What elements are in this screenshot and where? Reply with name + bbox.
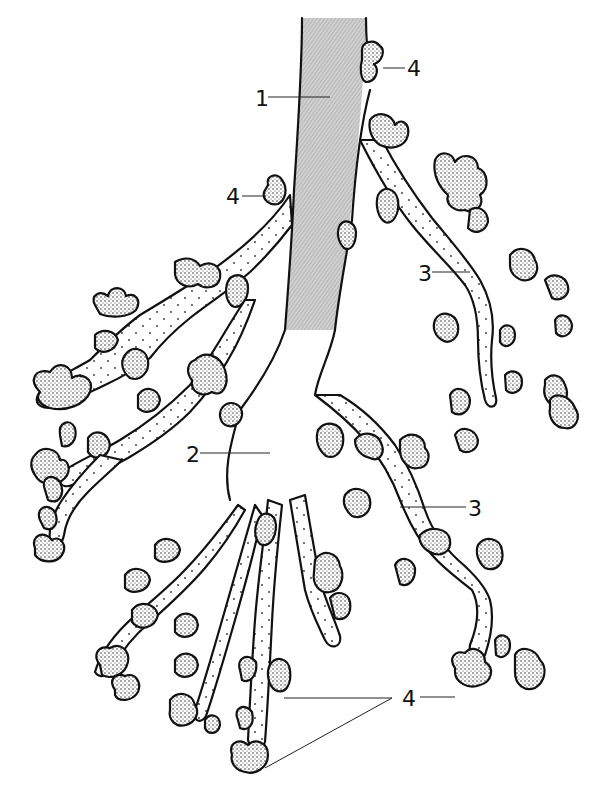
- bud-right-trunk: [338, 221, 356, 249]
- bud-top: [361, 42, 383, 82]
- bronchial-tree-diagram: 1 2 3 3 4 4 4: [0, 0, 611, 806]
- label-4-top: 4: [407, 56, 421, 81]
- label-3-lower: 3: [468, 496, 482, 521]
- lower-left-bundle: [95, 505, 245, 700]
- label-4-left: 4: [226, 184, 240, 209]
- label-3-upper: 3: [418, 261, 432, 286]
- bud-left: [264, 175, 286, 204]
- right-upper-branch: [360, 114, 578, 452]
- label-4-bottom: 4: [402, 686, 416, 711]
- bud-center: [220, 403, 242, 426]
- label-1: 1: [255, 86, 269, 111]
- label-2: 2: [186, 442, 200, 467]
- right-lower-branch: [315, 395, 545, 689]
